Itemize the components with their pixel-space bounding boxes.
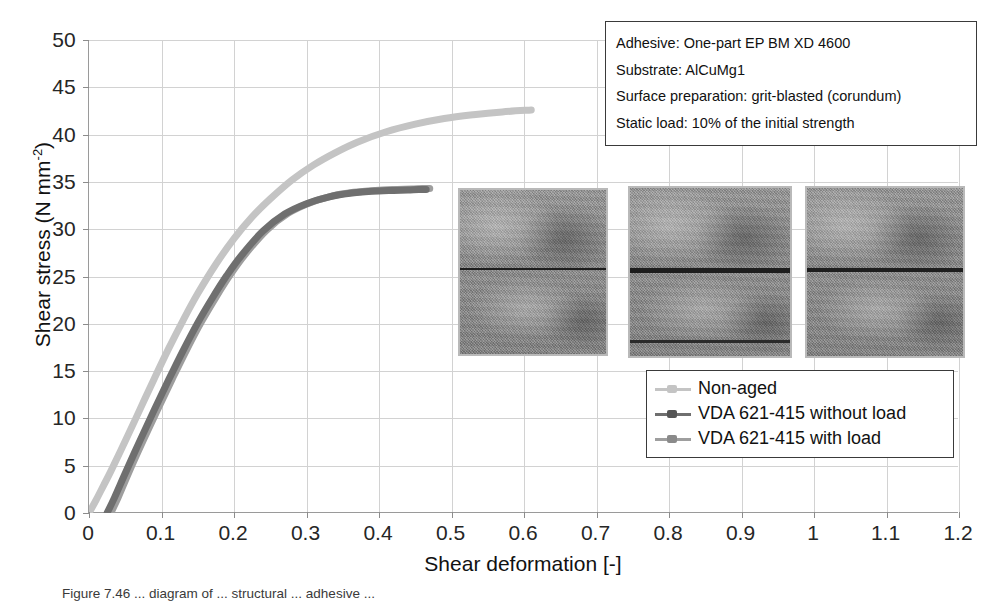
legend-item-without-load[interactable]: VDA 621-415 without load [655, 401, 945, 426]
x-tick-label: 0.2 [218, 521, 247, 545]
y-axis-title: Shear stress (N mm-2) [30, 35, 55, 455]
x-tick-label: 0.6 [508, 521, 537, 545]
x-tick-mark [959, 512, 960, 518]
x-tick-label: 0 [82, 521, 94, 545]
y-tick-label: 35 [52, 170, 76, 194]
legend-marker [667, 435, 677, 443]
y-tick-mark [83, 87, 89, 88]
figure-caption: Figure 7.46 ... diagram of ... structura… [62, 586, 375, 601]
legend-marker [667, 385, 677, 393]
x-tick-mark [452, 512, 453, 518]
x-tick-label: 0.3 [291, 521, 320, 545]
x-tick-mark [307, 512, 308, 518]
fracture-surface-photo-without-load [628, 186, 792, 358]
photo-texture [460, 190, 606, 354]
legend-swatch-icon [655, 407, 691, 421]
y-tick-label: 0 [64, 501, 76, 525]
x-tick-mark [89, 512, 90, 518]
photo-seam-line [630, 268, 790, 273]
x-tick-mark [814, 512, 815, 518]
y-tick-label: 25 [52, 265, 76, 289]
y-tick-label: 15 [52, 359, 76, 383]
legend-label: VDA 621-415 with load [698, 428, 881, 449]
y-tick-label: 20 [52, 312, 76, 336]
x-tick-label: 1 [807, 521, 819, 545]
y-tick-mark [83, 182, 89, 183]
y-tick-label: 45 [52, 75, 76, 99]
legend-swatch-icon [655, 382, 691, 396]
y-tick-mark [83, 135, 89, 136]
x-tick-mark [742, 512, 743, 518]
y-tick-mark [83, 466, 89, 467]
legend-box: Non-aged VDA 621-415 without load VDA 62… [646, 370, 954, 458]
x-axis-tick-labels: 00.10.20.30.40.50.60.70.80.911.11.2 [88, 521, 958, 549]
info-line-adhesive: Adhesive: One-part EP BM XD 4600 [616, 30, 966, 57]
info-line-substrate: Substrate: AlCuMg1 [616, 57, 966, 84]
y-axis-title-base: Shear stress (N mm [31, 160, 54, 347]
legend-item-non-aged[interactable]: Non-aged [655, 376, 945, 401]
y-tick-mark [83, 418, 89, 419]
photo-seam-line-lower [630, 340, 790, 343]
y-tick-label: 10 [52, 406, 76, 430]
fracture-surface-photo-non-aged [458, 188, 608, 356]
x-tick-label: 0.8 [653, 521, 682, 545]
x-tick-label: 1.1 [871, 521, 900, 545]
series-line-3 [111, 188, 430, 513]
y-tick-mark [83, 40, 89, 41]
x-tick-mark [887, 512, 888, 518]
x-tick-mark [162, 512, 163, 518]
info-line-surface-preparation: Surface preparation: grit-blasted (corun… [616, 83, 966, 110]
x-tick-label: 0.4 [363, 521, 392, 545]
y-tick-label: 30 [52, 217, 76, 241]
y-tick-label: 5 [64, 454, 76, 478]
photo-texture [807, 188, 963, 356]
x-tick-mark [379, 512, 380, 518]
legend-swatch-icon [655, 432, 691, 446]
legend-item-with-load[interactable]: VDA 621-415 with load [655, 426, 945, 451]
x-tick-mark [597, 512, 598, 518]
y-axis-title-tail: ) [31, 142, 54, 149]
x-tick-label: 0.5 [436, 521, 465, 545]
x-tick-label: 1.2 [943, 521, 972, 545]
photo-seam-line [807, 268, 963, 272]
legend-marker [667, 410, 677, 418]
y-tick-label: 50 [52, 28, 76, 52]
x-tick-label: 0.1 [146, 521, 175, 545]
x-tick-mark [234, 512, 235, 518]
info-box: Adhesive: One-part EP BM XD 4600 Substra… [605, 21, 977, 146]
y-tick-mark [83, 277, 89, 278]
photo-seam-line [460, 268, 606, 270]
x-tick-label: 0.9 [726, 521, 755, 545]
series-line-2 [107, 189, 426, 513]
x-tick-label: 0.7 [581, 521, 610, 545]
x-tick-mark [524, 512, 525, 518]
figure-container: 05101520253035404550 00.10.20.30.40.50.6… [0, 0, 989, 602]
legend-label: Non-aged [698, 378, 777, 399]
info-line-static-load: Static load: 10% of the initial strength [616, 110, 966, 137]
y-tick-label: 40 [52, 123, 76, 147]
y-tick-mark [83, 229, 89, 230]
x-axis-title: Shear deformation [-] [88, 552, 958, 576]
x-tick-mark [669, 512, 670, 518]
legend-label: VDA 621-415 without load [698, 403, 906, 424]
y-tick-mark [83, 371, 89, 372]
fracture-surface-photo-with-load [805, 186, 965, 358]
y-tick-mark [83, 324, 89, 325]
y-axis-title-exponent: -2 [30, 149, 45, 161]
